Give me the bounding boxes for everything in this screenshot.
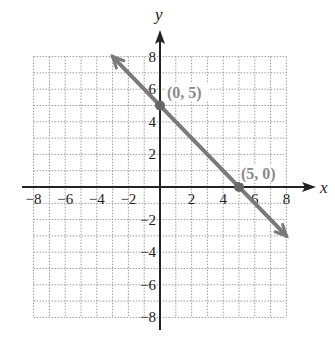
y-tick-label: 2	[149, 146, 157, 162]
x-tick-label: 2	[188, 191, 196, 207]
point-label: (5, 0)	[241, 165, 276, 183]
x-tick-label: −4	[89, 191, 105, 207]
x-axis-label: x	[319, 178, 328, 197]
y-tick-label: −4	[140, 244, 156, 260]
y-tick-label: −6	[140, 277, 156, 293]
x-tick-label: 4	[219, 191, 227, 207]
coordinate-plane: x y −8−6−4−224688642−2−4−6−8 (0, 5)(5, 0…	[0, 0, 335, 342]
y-tick-label: 8	[149, 49, 157, 65]
y-axis-label: y	[153, 5, 163, 24]
data-point-marker	[234, 182, 244, 192]
point-label: (0, 5)	[167, 84, 202, 102]
x-tick-label: −8	[26, 191, 42, 207]
x-tick-label: −6	[57, 191, 73, 207]
x-tick-label: −2	[120, 191, 136, 207]
y-tick-label: 4	[149, 114, 157, 130]
x-tick-label: 8	[283, 191, 291, 207]
data-point-marker	[155, 101, 165, 111]
y-tick-label: −8	[140, 309, 156, 325]
y-tick-label: −2	[140, 212, 156, 228]
